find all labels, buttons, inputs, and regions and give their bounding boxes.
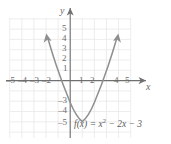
x-tick-label-4: 4 [114,76,119,85]
x-tick-label-5: 5 [125,76,130,85]
graph-figure: y x –5 –4 –3 –2 1 2 4 5 5 4 3 2 1 –3 –4 … [0,0,171,144]
y-tick-label-3: 3 [62,44,67,53]
equation-remainder: − 2x − 3 [106,119,142,129]
y-tick-label-2: 2 [62,54,67,63]
x-axis-label: x [146,82,150,92]
y-axis-label: y [60,6,64,16]
x-tick-label--3: –3 [30,76,39,85]
y-tick-label-5: 5 [62,24,67,33]
x-tick-label--2: –2 [42,76,51,85]
y-tick-label--3: –3 [58,96,67,105]
y-axis [67,8,74,138]
equation-annotation: f(x)=x2 − 2x − 3 [74,118,142,130]
x-tick-label--5: –5 [6,76,15,85]
y-tick-label-1: 1 [63,64,68,73]
y-tick-label-4: 4 [62,34,67,43]
y-tick-label--5: –5 [58,118,67,127]
x-tick-label-1: 1 [79,76,84,85]
function-notation: f(x) [74,119,87,129]
y-tick-label--4: –4 [58,106,67,115]
equals-sign: = [90,119,95,129]
x-tick-label--4: –4 [18,76,27,85]
x-tick-label-2: 2 [90,76,95,85]
